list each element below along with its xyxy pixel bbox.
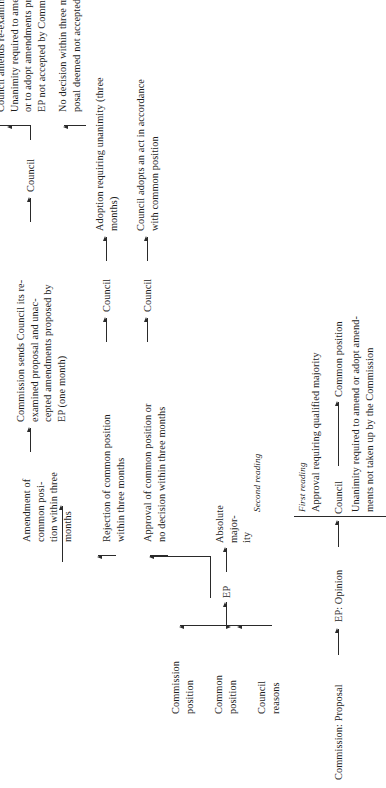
arrow-commission-sends-to-council — [24, 198, 36, 222]
node-council-adopts: Council adopts an act in accordance with… — [134, 15, 161, 231]
arrow-branch-to-rejection — [98, 550, 116, 562]
arrow-branch-to-approval — [150, 550, 168, 562]
node-council-amends: Council amends re-examined proposal. Una… — [0, 0, 49, 112]
arrow-council-to-no-decision — [64, 120, 86, 132]
arrow-council-to-adoption-unanimity — [100, 237, 112, 261]
node-council-third: Council — [24, 146, 38, 192]
node-ep-opinion: EP: Opinion — [332, 552, 346, 622]
arrow-opinion-to-council — [332, 521, 344, 547]
divider-first-reading — [294, 516, 386, 517]
node-amendment: Amendment of common posi- tion within th… — [20, 458, 75, 542]
node-qualified-majority: Approval requiring qualified majority — [309, 282, 323, 512]
arrow-commission-position-up — [180, 620, 210, 632]
arrow-amendment-to-commission-sends — [24, 428, 36, 452]
node-common-position-small: Common position — [212, 648, 239, 714]
node-unanimity-note: Unanimity required to amend or adopt ame… — [349, 264, 376, 512]
node-commission-sends: Commission sends Council its re- examine… — [14, 226, 69, 422]
arrow-approval-to-council — [141, 318, 153, 342]
connector-council-fan-lead — [30, 126, 31, 140]
node-commission-proposal: Commission: Proposal — [332, 660, 346, 780]
arrow-council-to-adopts — [141, 237, 153, 261]
node-ep: EP — [220, 574, 234, 598]
node-common-position: Common position — [332, 287, 346, 397]
node-council-reasons: Council reasons — [255, 648, 282, 714]
arrow-council-reasons-up — [238, 620, 272, 632]
node-approval-or-no-decision: Approval of common position or no decisi… — [141, 350, 168, 542]
arrow-rejection-to-council — [100, 318, 112, 342]
connector-ep-branch-stem — [210, 556, 211, 598]
arrow-council-to-common-position — [332, 402, 344, 466]
arrow-proposal-to-opinion — [332, 629, 344, 655]
label-first-reading: First reading — [296, 422, 308, 512]
node-council-second-reading-b: Council — [100, 266, 114, 312]
node-absolute-majority: Absolute major- ity — [213, 475, 254, 543]
arrow-council-to-amends — [8, 120, 30, 132]
node-rejection: Rejection of common position within thre… — [100, 350, 127, 542]
arrow-ep-to-absolute-majority — [220, 548, 232, 572]
arrow-feedback-to-ep — [220, 603, 232, 625]
node-council-first-reading: Council — [332, 468, 346, 514]
node-adoption-unanimity: Adoption requiring unanimity (three mont… — [93, 15, 120, 231]
node-council-second-reading-a: Council — [141, 266, 155, 312]
node-no-decision: No decision within three months; pro- po… — [56, 0, 83, 112]
node-commission-position: Commission position — [169, 634, 196, 714]
